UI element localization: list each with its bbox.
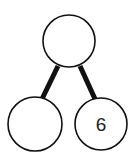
number-bond-diagram: 6 [0, 0, 134, 166]
node-part-right: 6 [75, 98, 127, 150]
right-part-label: 6 [96, 114, 107, 135]
node-whole [43, 15, 95, 67]
edge-whole-to-left-part [42, 66, 58, 99]
edge-whole-to-right-part [80, 66, 95, 99]
left-part-circle [8, 97, 62, 151]
node-part-left [8, 97, 62, 151]
whole-circle [43, 15, 95, 67]
